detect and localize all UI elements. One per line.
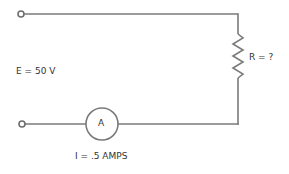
resistor-symbol: [233, 34, 243, 78]
bottom-terminal: [19, 121, 25, 127]
top-terminal: [18, 11, 24, 17]
current-label: I = .5 AMPS: [75, 152, 127, 161]
source-voltage-label: E = 50 V: [16, 67, 55, 76]
circuit-diagram: [0, 0, 289, 174]
resistor-label: R = ?: [249, 53, 273, 62]
ammeter-symbol: A: [98, 119, 104, 128]
